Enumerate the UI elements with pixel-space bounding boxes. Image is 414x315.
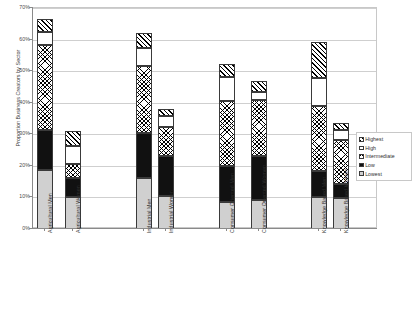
legend-swatch-lowest [359,171,364,176]
legend-item-low[interactable]: Low [359,161,409,170]
bar-segment-intermediate [219,101,235,167]
bar-segment-intermediate [311,106,327,171]
x-tick-mark [44,228,45,231]
bar-segment-high [158,116,174,127]
y-tick-label: 20% [6,162,30,168]
bar-segment-intermediate [136,66,152,133]
bar-segment-high [311,78,327,105]
bar-segment-low [37,130,53,170]
x-tick-mark [143,228,144,231]
legend-swatch-highest [359,137,364,142]
legend: HighestHighIntermediateLowLowest [356,132,412,181]
bar-segment-high [65,146,81,164]
x-axis-label: Knowledge Based Women [343,167,349,233]
legend-swatch-intermediate [359,154,364,159]
bar-segment-high [333,130,349,140]
x-tick-mark [226,228,227,231]
legend-label: Lowest [365,171,382,177]
x-tick-mark [318,228,319,231]
bar-segment-high [136,48,152,66]
legend-swatch-high [359,146,364,151]
x-tick-mark [72,228,73,231]
legend-label: High [365,145,376,151]
y-axis-ticks: 70%60%50%40%30%20%10%0% [0,0,30,315]
bar-segment-highest [311,42,327,78]
y-tick-label: 0% [6,225,30,231]
x-axis-label: Industrial Men [146,167,152,233]
legend-item-high[interactable]: High [359,144,409,153]
bar-segment-highest [136,33,152,48]
y-tick-label: 50% [6,67,30,73]
legend-label: Highest [365,136,383,142]
chart-figure: Proportion Business Creators by Sector 7… [0,0,414,315]
bar-segment-highest [219,64,235,76]
bar-segment-high [37,32,53,45]
bar-segment-intermediate [37,45,53,130]
x-tick-mark [340,228,341,231]
y-tick-label: 30% [6,130,30,136]
bar-segment-intermediate [251,100,267,157]
x-axis-label: Knowledge Based Men [321,167,327,233]
legend-item-highest[interactable]: Highest [359,135,409,144]
y-tick-label: 10% [6,193,30,199]
bar-segment-highest [65,131,81,146]
x-tick-mark [258,228,259,231]
legend-item-lowest[interactable]: Lowest [359,169,409,178]
legend-label: Low [365,162,375,168]
x-tick-mark [165,228,166,231]
legend-swatch-low [359,163,364,168]
legend-label: Intermediate [365,153,394,159]
x-axis-label: Agricultural Women [75,167,81,233]
x-axis-label: Consumer Oriented Men [229,167,235,233]
x-axis-label: Consumer Oriented Women [261,167,267,233]
y-axis-line [32,7,33,228]
bar-segment-intermediate [158,127,174,156]
bar-segment-highest [37,19,53,32]
y-tick-label: 70% [6,4,30,10]
y-tick-label: 40% [6,99,30,105]
bar-segment-high [219,77,235,101]
x-axis-label: Agricultural Men [47,167,53,233]
bar-segment-highest [251,81,267,92]
bar-segment-highest [158,109,174,116]
x-axis-label: Industrial Women [168,167,174,233]
legend-item-intermediate[interactable]: Intermediate [359,152,409,161]
y-tick-label: 60% [6,36,30,42]
bar-segment-highest [333,123,349,131]
bar-segment-high [251,92,267,100]
